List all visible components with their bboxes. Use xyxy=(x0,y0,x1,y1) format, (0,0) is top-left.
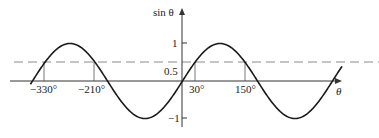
y-label-1: 1 xyxy=(172,37,178,49)
x-axis-label: θ xyxy=(336,85,342,97)
x-label-m330: −330° xyxy=(30,83,57,95)
x-axis-arrow-icon xyxy=(335,78,342,84)
y-label-neg1: −1 xyxy=(168,112,180,124)
x-label-m210: −210° xyxy=(78,83,105,95)
y-axis-arrow-icon xyxy=(179,8,185,15)
sine-chart: sin θ θ 1 0.5 −1 −330° −210° 30° 150° xyxy=(0,0,379,138)
x-label-30: 30° xyxy=(189,83,204,95)
x-label-150: 150° xyxy=(235,83,256,95)
y-axis-label: sin θ xyxy=(153,6,174,18)
y-label-half: 0.5 xyxy=(164,65,178,77)
